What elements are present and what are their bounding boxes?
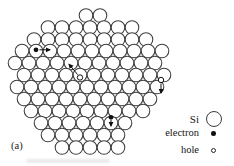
si-atom-circle <box>52 80 66 94</box>
si-atom-circle <box>55 141 69 155</box>
si-atom-circle <box>45 68 59 82</box>
si-atom-circle <box>113 44 127 58</box>
si-atom-circle <box>97 128 111 142</box>
si-atom-circle <box>136 80 150 94</box>
si-atom-circle <box>57 44 71 58</box>
si-atom-circle <box>43 44 57 58</box>
si-atom-circle <box>10 80 24 94</box>
si-atom-circle <box>69 128 83 142</box>
electron-dot-symbol-icon <box>211 131 216 136</box>
semiconductor-lattice-figure: Si electron hole (a) <box>0 0 234 166</box>
legend-item-si: Si <box>190 110 222 128</box>
si-atom-circle <box>83 141 97 155</box>
si-atom-circle <box>48 116 62 130</box>
scan-artifact <box>26 159 110 163</box>
si-atom-circle <box>99 44 113 58</box>
si-atom-circle <box>101 68 115 82</box>
si-atom-circle <box>94 80 108 94</box>
si-atom-circle <box>85 44 99 58</box>
si-atom-circle <box>69 141 83 155</box>
hole-symbol-slot <box>205 148 222 154</box>
si-atom-circle <box>111 141 125 155</box>
si-atom-circle <box>127 44 141 58</box>
si-atom-circle <box>136 104 150 118</box>
hole-circle <box>77 75 82 80</box>
electron-symbol-slot <box>205 131 222 136</box>
si-atom-circle <box>129 92 143 106</box>
si-atom-circle <box>62 116 76 130</box>
legend-label-hole: hole <box>181 145 199 156</box>
si-atom-circle <box>38 80 52 94</box>
si-atom-circle <box>115 92 129 106</box>
si-atom-circle <box>24 104 38 118</box>
si-atom-circle <box>108 80 122 94</box>
si-atom-circle <box>76 116 90 130</box>
legend-label-si: Si <box>190 114 199 125</box>
si-symbol-slot <box>205 111 222 127</box>
lattice-svg <box>0 0 234 166</box>
si-atom-circle <box>118 116 132 130</box>
si-atom-circle <box>59 92 73 106</box>
si-atom-circle <box>122 80 136 94</box>
si-atom-circle <box>141 44 155 58</box>
si-atom-circle <box>34 116 48 130</box>
si-atom-circle <box>143 92 157 106</box>
si-atom-circle <box>31 68 45 82</box>
si-atom-circle <box>45 92 59 106</box>
si-atom-circle <box>8 56 22 70</box>
legend-item-hole: hole <box>181 144 222 157</box>
si-atom-circle <box>87 92 101 106</box>
legend-label-electron: electron <box>165 128 199 139</box>
si-atom-circle <box>97 141 111 155</box>
si-atom-circle <box>59 68 73 82</box>
si-atom-circle <box>87 68 101 82</box>
si-atom-circle <box>101 92 115 106</box>
si-atom-circle <box>41 128 55 142</box>
si-atom-circle <box>71 44 85 58</box>
hole-circle <box>158 77 163 82</box>
si-atom-circle <box>143 68 157 82</box>
si-atom-circle <box>15 44 29 58</box>
si-atom-circle <box>111 128 125 142</box>
si-atom-circle <box>129 68 143 82</box>
legend-item-electron: electron <box>165 127 222 140</box>
si-atom-circle <box>80 80 94 94</box>
si-atom-circle <box>55 128 69 142</box>
hole-circle-symbol-icon <box>211 148 217 154</box>
electron-dot <box>109 115 114 120</box>
figure-label: (a) <box>11 140 23 151</box>
si-atom-circle <box>155 44 169 58</box>
si-atom-circle <box>66 80 80 94</box>
si-atom-circle <box>31 92 45 106</box>
si-atom-circle <box>90 116 104 130</box>
electron-dot <box>34 47 39 52</box>
si-atom-circle <box>17 68 31 82</box>
si-atom-circle <box>17 92 31 106</box>
si-atom-circle <box>83 128 97 142</box>
si-atom-circle <box>24 80 38 94</box>
si-atom-circle <box>73 92 87 106</box>
si-atom-symbol-icon <box>206 111 222 127</box>
si-atom-circle <box>115 68 129 82</box>
